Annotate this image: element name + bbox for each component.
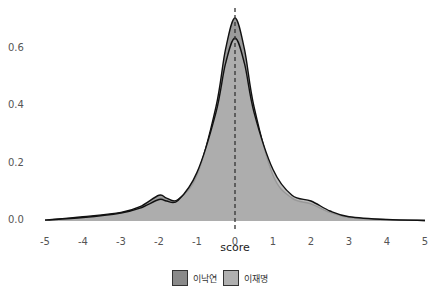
legend-label-2: 이재명: [244, 272, 268, 285]
x-tick--4: -4: [73, 236, 93, 247]
x-tick-5: 5: [415, 236, 435, 247]
y-tick-0.2: 0.2: [8, 157, 24, 168]
x-tick-4: 4: [377, 236, 397, 247]
legend-swatch-1: [172, 270, 188, 286]
x-tick--1: -1: [187, 236, 207, 247]
x-tick--3: -3: [111, 236, 131, 247]
x-axis-title: score: [215, 241, 255, 254]
y-tick-0.4: 0.4: [8, 99, 24, 110]
density-plot: [0, 0, 439, 301]
legend: 이낙연 이재명: [0, 270, 439, 286]
legend-label-1: 이낙연: [193, 272, 217, 285]
legend-item-series-1: 이낙연: [172, 270, 217, 286]
x-tick-3: 3: [339, 236, 359, 247]
x-tick-2: 2: [301, 236, 321, 247]
y-tick-0.6: 0.6: [8, 42, 24, 53]
x-tick-1: 1: [263, 236, 283, 247]
y-tick-0.0: 0.0: [8, 214, 24, 225]
legend-item-series-2: 이재명: [223, 270, 268, 286]
legend-swatch-2: [223, 270, 239, 286]
x-tick--2: -2: [149, 236, 169, 247]
x-tick--5: -5: [35, 236, 55, 247]
